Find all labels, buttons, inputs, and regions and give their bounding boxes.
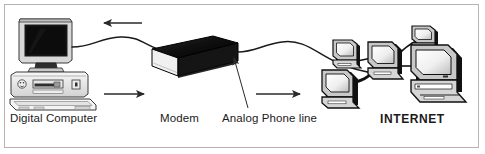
label-analog-phone-line: Analog Phone line [222, 113, 317, 125]
cluster-computer-lower-left [322, 70, 359, 108]
node-digital-computer [10, 19, 96, 110]
desktop-monitor-icon [19, 19, 72, 72]
node-modem [152, 36, 238, 78]
cluster-computer-large-right [411, 45, 466, 102]
keyboard-icon [10, 99, 96, 110]
arrow-phone-line-pointer [234, 58, 248, 108]
label-digital-computer: Digital Computer [10, 113, 97, 125]
diagram-canvas [0, 0, 485, 154]
label-internet: INTERNET [380, 113, 445, 125]
node-internet-cluster [322, 26, 466, 108]
label-modem: Modem [160, 113, 199, 125]
cluster-computer-middle [368, 42, 403, 79]
computer-case-icon [11, 72, 88, 97]
cluster-computer-upper-left [333, 40, 361, 68]
figure-diagram-container: Digital Computer Modem Analog Phone line… [0, 0, 485, 154]
